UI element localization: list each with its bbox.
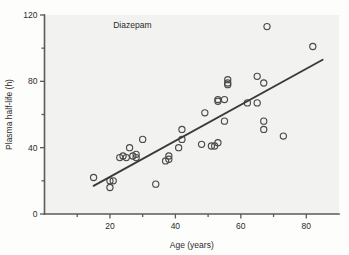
figure-container: 04080120 20406080 Diazepam Age (years) P… (0, 0, 349, 255)
scatter-plot: 04080120 20406080 Diazepam Age (years) P… (0, 0, 349, 255)
x-tick-label: 40 (171, 221, 181, 231)
y-tick-label: 0 (33, 209, 38, 219)
x-axis-tick-labels: 20406080 (105, 221, 311, 231)
y-tick-label: 80 (28, 76, 38, 86)
y-tick-label: 120 (23, 10, 37, 20)
x-axis-title: Age (years) (170, 240, 214, 250)
y-axis-tick-labels: 04080120 (23, 10, 37, 219)
plot-background (44, 15, 339, 214)
y-tick-label: 40 (28, 143, 38, 153)
x-tick-label: 80 (302, 221, 312, 231)
x-tick-label: 60 (236, 221, 246, 231)
y-axis-title: Plasma half-life (h) (4, 79, 14, 150)
x-tick-label: 20 (105, 221, 115, 231)
series-annotation-label: Diazepam (113, 20, 151, 30)
